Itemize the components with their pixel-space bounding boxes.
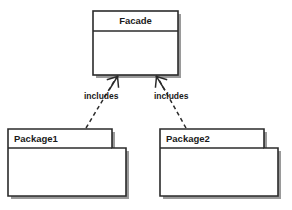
package1-name: Package1 [14,134,112,144]
package1-body-fill [8,148,126,196]
package2-body-fill [160,148,278,196]
arrowhead-right-icon [156,77,167,90]
facade-pattern-diagram: Facade Package1 Package2 includes includ… [0,0,292,210]
package2-name: Package2 [166,134,264,144]
diagram-canvas [0,0,292,210]
arrowhead-left-icon [108,77,119,90]
facade-class-name: Facade [93,16,178,26]
dependency-package1-to-facade[interactable] [86,77,119,129]
edge-label-includes-right: includes [154,92,188,101]
edge-label-includes-left: includes [84,92,118,101]
dependency-package2-to-facade[interactable] [156,77,187,129]
